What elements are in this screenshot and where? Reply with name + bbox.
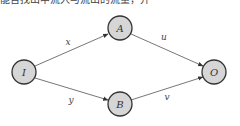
- edge-i-to-a: [35, 34, 108, 66]
- edge-label-x: x: [65, 37, 70, 47]
- edge-a-to-o: [131, 34, 203, 66]
- node-b-label: B: [115, 99, 123, 110]
- node-a: A: [108, 16, 132, 40]
- node-o: O: [202, 60, 226, 84]
- node-a-label: A: [115, 23, 123, 34]
- flow-network-diagram: x u y v I A B O: [0, 0, 240, 126]
- node-o-label: O: [210, 67, 218, 78]
- edge-label-y: y: [67, 95, 74, 105]
- node-i: I: [12, 60, 36, 84]
- edge-label-v: v: [164, 92, 169, 102]
- edge-label-u: u: [161, 32, 167, 42]
- node-b: B: [108, 92, 132, 116]
